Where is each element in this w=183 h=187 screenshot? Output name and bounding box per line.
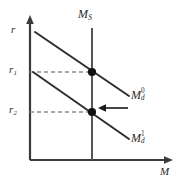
rate-label-r2-sub: 2 (13, 109, 16, 116)
horizontal-axis-label: M (160, 166, 169, 177)
money-supply-label-sub: S (88, 13, 92, 22)
figure-canvas (0, 0, 183, 187)
money-demand-shifted-label: M1d (131, 132, 147, 145)
vertical-axis-label: r (11, 24, 15, 35)
demand-shift-arrow (98, 104, 128, 111)
money-supply-label-base: M (78, 7, 88, 21)
initial-equilibrium-dot (88, 68, 96, 76)
money-demand-initial-label-affixes: 0d (141, 90, 147, 102)
vertical-axis-arrowhead (26, 15, 34, 24)
demand-shift-arrowhead (98, 104, 106, 111)
money-demand-initial-label-base: M (131, 88, 141, 102)
money-demand-initial-label: M0d (131, 89, 147, 102)
money-supply-label: MS (78, 8, 92, 20)
money-demand-initial-curve (35, 32, 129, 96)
horizontal-axis (30, 156, 173, 164)
money-demand-shifted-label-base: M (131, 131, 141, 145)
vertical-axis (26, 15, 34, 160)
horizontal-axis-arrowhead (164, 156, 173, 164)
money-demand-shifted-label-sub: d (141, 138, 145, 145)
money-demand-shifted-curve (33, 72, 129, 139)
rate-label-r1-sub: 1 (13, 69, 16, 76)
money-demand-initial-label-sub: d (141, 95, 145, 102)
money-demand-shifted-label-affixes: 1d (141, 133, 147, 145)
money-market-figure: r MS r1 r2 M0d M1d M (0, 0, 183, 187)
rate-label-r1: r1 (9, 64, 17, 75)
new-equilibrium-dot (88, 108, 96, 116)
rate-label-r2: r2 (9, 104, 17, 115)
